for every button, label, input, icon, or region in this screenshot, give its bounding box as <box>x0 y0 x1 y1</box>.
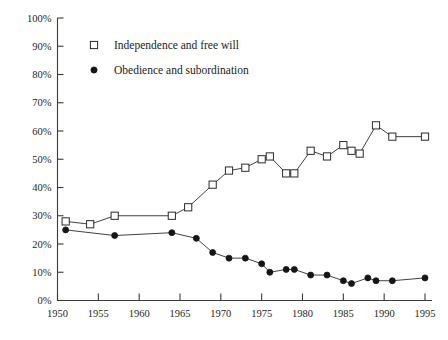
chart-container: 0%10%20%30%40%50%60%70%80%90%100% 195019… <box>0 0 448 340</box>
legend-item[interactable]: Independence and free will <box>90 39 238 52</box>
x-tick-label: 1985 <box>333 308 354 319</box>
data-point-marker <box>193 235 199 241</box>
x-axis-ticks: 1950195519601965197019751980198519901995 <box>47 294 436 319</box>
data-point-marker <box>226 255 232 261</box>
data-point-marker <box>267 269 273 275</box>
data-point-marker <box>242 255 248 261</box>
data-point-marker <box>63 227 69 233</box>
legend-item[interactable]: Obedience and subordination <box>91 64 249 76</box>
x-tick-label: 1975 <box>251 308 272 319</box>
x-tick-label: 1950 <box>47 308 68 319</box>
y-tick-label: 60% <box>32 126 52 137</box>
chart-legend: Independence and free willObedience and … <box>90 39 249 76</box>
legend-label: Obedience and subordination <box>114 64 249 76</box>
x-tick-label: 1955 <box>88 308 109 319</box>
data-point-marker <box>112 233 118 239</box>
data-point-marker <box>373 278 379 284</box>
data-point-marker <box>340 278 346 284</box>
y-tick-label: 10% <box>32 267 52 278</box>
data-point-marker <box>422 275 428 281</box>
data-point-marker <box>111 212 118 219</box>
data-point-marker <box>168 212 175 219</box>
data-point-marker <box>348 147 355 154</box>
y-tick-label: 40% <box>32 182 52 193</box>
x-tick-label: 1960 <box>129 308 150 319</box>
data-point-marker <box>225 167 232 174</box>
legend-label: Independence and free will <box>114 39 239 52</box>
data-point-marker <box>209 181 216 188</box>
data-point-marker <box>169 230 175 236</box>
data-point-marker <box>283 266 289 272</box>
y-tick-label: 0% <box>38 295 52 306</box>
y-tick-label: 50% <box>32 154 52 165</box>
data-point-marker <box>349 281 355 287</box>
line-chart: 0%10%20%30%40%50%60%70%80%90%100% 195019… <box>0 0 448 340</box>
data-point-marker <box>365 275 371 281</box>
data-point-marker <box>291 266 297 272</box>
data-point-marker <box>242 164 249 171</box>
x-tick-label: 1990 <box>374 308 395 319</box>
data-point-marker <box>307 147 314 154</box>
data-point-marker <box>259 261 265 267</box>
data-point-marker <box>87 221 94 228</box>
x-tick-label: 1970 <box>210 308 231 319</box>
y-tick-label: 90% <box>32 41 52 52</box>
data-point-marker <box>283 170 290 177</box>
chart-series <box>62 122 429 287</box>
legend-open-square-icon <box>90 41 97 48</box>
data-point-marker <box>258 156 265 163</box>
data-point-marker <box>266 153 273 160</box>
data-point-marker <box>389 278 395 284</box>
y-tick-label: 100% <box>27 13 52 24</box>
data-point-marker <box>324 272 330 278</box>
data-point-marker <box>421 133 428 140</box>
series-open-square <box>62 122 429 228</box>
y-tick-label: 30% <box>32 210 52 221</box>
data-point-marker <box>356 150 363 157</box>
data-point-marker <box>372 122 379 129</box>
x-tick-label: 1980 <box>292 308 313 319</box>
y-tick-label: 70% <box>32 97 52 108</box>
data-point-marker <box>389 133 396 140</box>
series-line <box>66 125 425 224</box>
data-point-marker <box>340 142 347 149</box>
legend-filled-circle-icon <box>91 67 97 73</box>
x-tick-label: 1995 <box>415 308 436 319</box>
x-tick-label: 1965 <box>170 308 191 319</box>
y-tick-label: 80% <box>32 69 52 80</box>
series-filled-circle <box>63 227 428 287</box>
data-point-marker <box>185 204 192 211</box>
data-point-marker <box>308 272 314 278</box>
data-point-marker <box>210 249 216 255</box>
data-point-marker <box>323 153 330 160</box>
y-tick-label: 20% <box>32 239 52 250</box>
data-point-marker <box>291 170 298 177</box>
data-point-marker <box>62 218 69 225</box>
